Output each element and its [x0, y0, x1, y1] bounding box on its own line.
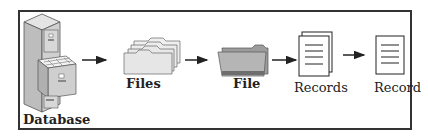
label-records: Records	[294, 80, 348, 95]
open-folder-icon	[218, 45, 268, 76]
label-database: Database	[23, 112, 90, 127]
label-files: Files	[126, 76, 161, 91]
document-icon	[376, 36, 404, 74]
stacked-documents-icon	[299, 32, 332, 76]
label-record: Record	[374, 80, 421, 95]
filing-cabinet-icon	[24, 14, 76, 112]
label-file: File	[233, 76, 260, 91]
stacked-folders-icon	[124, 38, 180, 74]
